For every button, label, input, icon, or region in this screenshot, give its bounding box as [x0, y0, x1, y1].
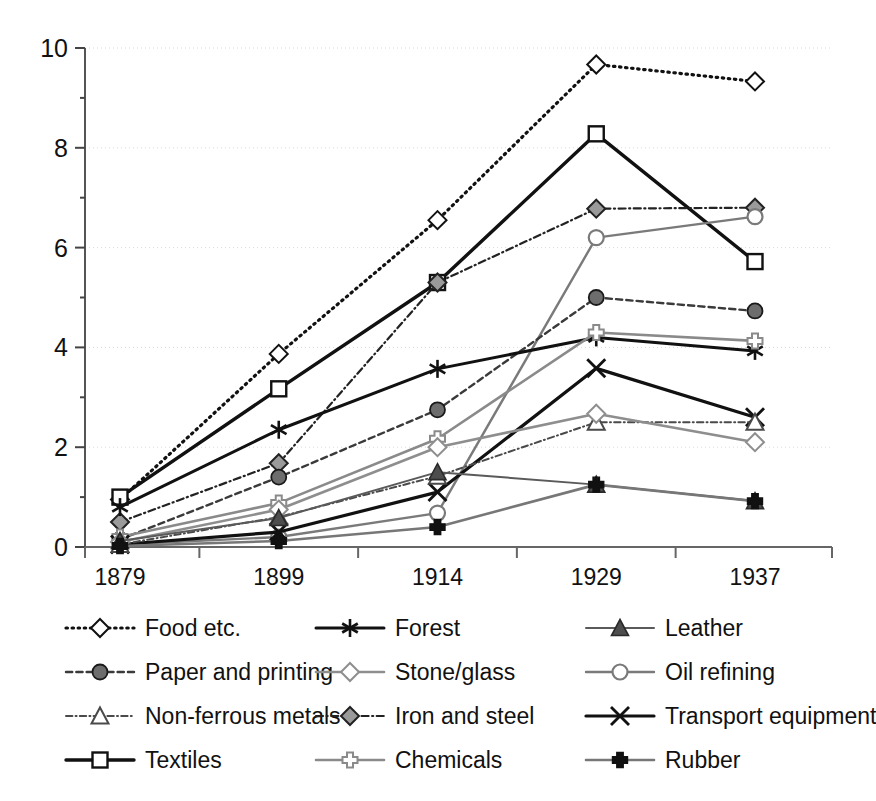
legend-item-textiles[interactable]: Textiles — [64, 738, 314, 782]
data-point-marker — [93, 753, 108, 768]
legend-swatch-asterisk-icon — [314, 615, 386, 641]
data-point-marker — [271, 470, 286, 485]
legend-item-chemicals[interactable]: Chemicals — [314, 738, 584, 782]
data-point-marker — [746, 72, 764, 90]
legend-label: Chemicals — [395, 747, 502, 773]
x-tick-label: 1914 — [412, 564, 463, 590]
x-tick-label: 1937 — [729, 564, 780, 590]
legend-item-stone-glass[interactable]: Stone/glass — [314, 650, 584, 694]
legend-label: Iron and steel — [395, 703, 534, 729]
legend-swatch-square-open-icon — [64, 747, 136, 773]
data-point-marker — [343, 753, 358, 768]
chart-legend: Food etc.ForestLeatherPaper and printing… — [64, 606, 854, 781]
series-layer — [111, 55, 764, 553]
data-point-marker — [430, 520, 445, 535]
x-tick-label: 1899 — [253, 564, 304, 590]
legend-swatch-circle-filled-icon — [64, 659, 136, 685]
legend-swatch-diamond-open-icon — [64, 615, 136, 641]
legend-label: Rubber — [665, 747, 740, 773]
data-point-marker — [271, 381, 286, 396]
data-point-marker — [746, 433, 764, 451]
x-tick-label: 1879 — [94, 564, 145, 590]
y-tick-label: 4 — [54, 333, 68, 361]
legend-swatch-diamond-open-icon — [314, 659, 386, 685]
y-tick-label: 2 — [54, 433, 68, 461]
legend-item-iron-and-steel[interactable]: Iron and steel — [314, 694, 584, 738]
data-point-marker — [341, 663, 359, 681]
data-point-marker — [613, 665, 628, 680]
legend-label: Stone/glass — [395, 659, 515, 685]
data-point-marker — [613, 753, 628, 768]
data-point-marker — [430, 402, 445, 417]
legend-item-leather[interactable]: Leather — [584, 606, 854, 650]
legend-label: Food etc. — [145, 615, 241, 641]
legend-swatch-circle-open-icon — [584, 659, 656, 685]
data-point-marker — [587, 55, 605, 73]
y-tick-label: 10 — [40, 34, 68, 62]
series-oil-refining — [113, 209, 763, 552]
legend-label: Transport equipment — [665, 703, 876, 729]
legend-label: Non-ferrous metals — [145, 703, 341, 729]
legend-item-oil-refining[interactable]: Oil refining — [584, 650, 854, 694]
data-point-marker — [93, 665, 108, 680]
legend-swatch-plus-open-icon — [314, 747, 386, 773]
legend-swatch-plus-filled-icon — [584, 747, 656, 773]
data-point-marker — [748, 209, 763, 224]
legend-item-rubber[interactable]: Rubber — [584, 738, 854, 782]
legend-swatch-cross-x-icon — [584, 703, 656, 729]
legend-item-paper-and-printing[interactable]: Paper and printing — [64, 650, 314, 694]
data-point-marker — [91, 619, 109, 637]
legend-label: Leather — [665, 615, 743, 641]
x-tick-label: 1929 — [571, 564, 622, 590]
data-point-marker — [587, 359, 605, 377]
data-point-marker — [748, 303, 763, 318]
y-tick-label: 6 — [54, 234, 68, 262]
data-point-marker — [430, 506, 445, 521]
data-point-marker — [589, 126, 604, 141]
gridlines — [85, 48, 832, 547]
legend-label: Forest — [395, 615, 460, 641]
data-point-marker — [748, 254, 763, 269]
data-point-marker — [589, 290, 604, 305]
legend-label: Oil refining — [665, 659, 775, 685]
data-point-marker — [341, 707, 359, 725]
data-point-marker — [271, 421, 287, 439]
legend-item-transport-equipment[interactable]: Transport equipment — [584, 694, 854, 738]
legend-item-non-ferrous-metals[interactable]: Non-ferrous metals — [64, 694, 314, 738]
legend-item-forest[interactable]: Forest — [314, 606, 584, 650]
legend-item-food-etc[interactable]: Food etc. — [64, 606, 314, 650]
y-tick-label: 0 — [54, 533, 68, 561]
legend-swatch-triangle-filled-icon — [584, 615, 656, 641]
y-tick-label: 8 — [54, 134, 68, 162]
legend-swatch-diamond-filled-icon — [314, 703, 386, 729]
data-point-marker — [587, 200, 605, 218]
legend-swatch-triangle-open-icon — [64, 703, 136, 729]
data-point-marker — [587, 405, 605, 423]
data-point-marker — [589, 230, 604, 245]
data-point-marker — [748, 333, 763, 348]
legend-label: Textiles — [145, 747, 222, 773]
legend-label: Paper and printing — [145, 659, 333, 685]
